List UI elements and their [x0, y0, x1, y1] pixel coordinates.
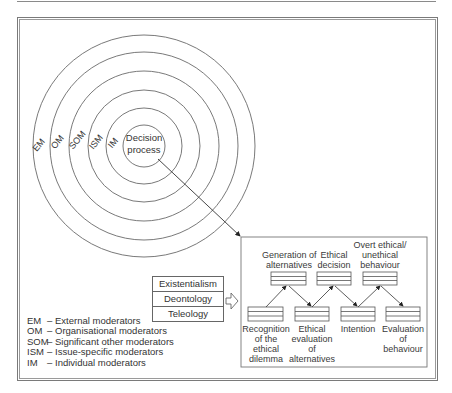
label-overt-behaviour: Overt ethical/ unethical behaviour: [352, 240, 408, 270]
label-line: Overt ethical/: [352, 240, 408, 250]
legend-dash: –: [47, 358, 55, 368]
label-line: behaviour: [352, 260, 408, 270]
label-line: of: [378, 334, 428, 344]
label-line: Intention: [333, 324, 383, 334]
legend: EM – External moderators OM – Organisati…: [27, 316, 174, 368]
label-line: ethical: [241, 344, 291, 354]
label-intention: Intention: [333, 324, 383, 334]
philosophy-deontology: Deontology: [153, 292, 223, 307]
label-line: of: [287, 344, 337, 354]
decision-process-line1: Decision: [123, 132, 165, 144]
label-line: Evaluation: [378, 324, 428, 334]
label-line: decision: [312, 260, 356, 270]
legend-row-im: IM – Individual moderators: [27, 358, 174, 368]
label-line: Generation of: [262, 250, 316, 260]
label-recognition: Recognition of the ethical dilemma: [241, 324, 291, 364]
label-ethical-evaluation: Ethical evaluation of alternatives: [287, 324, 337, 364]
hollow-arrow-icon: [226, 293, 238, 309]
legend-text: Individual moderators: [55, 358, 146, 368]
label-generation-of-alternatives: Generation of alternatives: [262, 250, 316, 270]
decision-process-label: Decision process: [123, 132, 165, 156]
label-line: Ethical: [287, 324, 337, 334]
legend-abbr: IM: [27, 358, 47, 368]
label-line: evaluation: [287, 334, 337, 344]
top-row-boxes: [271, 272, 397, 285]
label-line: dilemma: [241, 354, 291, 364]
decision-process-line2: process: [123, 144, 165, 156]
label-line: unethical: [352, 250, 408, 260]
philosophy-existentialism: Existentialism: [153, 277, 223, 292]
label-line: alternatives: [262, 260, 316, 270]
label-ethical-decision: Ethical decision: [312, 250, 356, 270]
label-line: behaviour: [378, 344, 428, 354]
label-line: of the: [241, 334, 291, 344]
label-line: Recognition: [241, 324, 291, 334]
connector-arrow: [158, 159, 240, 236]
label-line: Ethical: [312, 250, 356, 260]
label-evaluation-of-behaviour: Evaluation of behaviour: [378, 324, 428, 354]
label-line: alternatives: [287, 354, 337, 364]
